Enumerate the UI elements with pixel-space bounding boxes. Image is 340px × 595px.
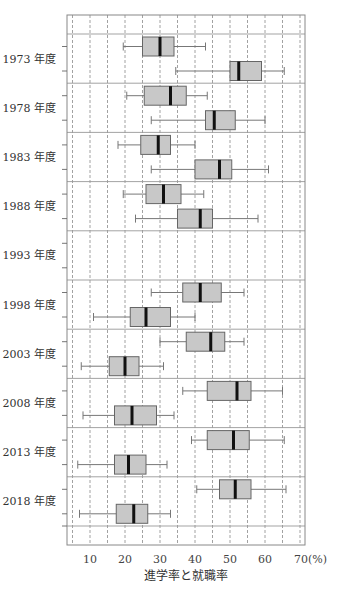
median-line [199,209,202,228]
year-label: 1973 年度 [3,52,57,66]
median-line [218,160,221,179]
median-line [127,455,130,474]
year-label: 1988 年度 [3,199,57,213]
x-tick-label: 40 [188,553,202,566]
x-axis-title: 進学率と就職率 [144,568,228,583]
median-line [199,283,202,302]
iqr-box [207,381,251,400]
x-tick-label: 10 [83,553,97,566]
iqr-box [183,283,222,302]
y-axis-ticks [62,47,67,527]
x-tick-label: 30 [153,553,167,566]
iqr-box [141,135,171,154]
box-advancement-rate [94,308,196,327]
box-advancement-rate [123,37,205,56]
box-advancement-rate [80,504,171,523]
iqr-box [230,62,262,81]
box-employment-rate [176,62,285,81]
year-label: 2013 年度 [3,445,57,459]
box-employment-rate [197,480,286,499]
x-tick-label: 50 [223,553,237,566]
median-line [162,185,165,204]
iqr-box [206,111,236,130]
median-line [145,308,148,327]
box-advancement-rate [123,185,204,204]
median-line [232,431,235,450]
year-label: 1978 年度 [3,101,57,115]
year-label: 1998 年度 [3,298,57,312]
x-axis-tick-labels: 10203040506070(%) [83,553,327,566]
x-tick-label: 20 [118,553,132,566]
iqr-box [130,308,170,327]
median-line [209,332,212,351]
iqr-box [115,455,147,474]
group-separators [67,34,305,526]
box-employment-rate [151,111,265,130]
median-line [131,406,134,425]
boxplot-chart: 1973 年度1978 年度1983 年度1988 年度1993 年度1998 … [0,0,340,595]
iqr-box [144,86,186,105]
x-tick-label: 70(%) [294,553,327,566]
iqr-box [116,504,148,523]
x-tick-label: 60 [258,553,272,566]
median-line [213,111,216,130]
box-employment-rate [183,381,283,400]
box-advancement-rate [78,455,167,474]
box-employment-rate [192,431,285,450]
iqr-box [195,160,232,179]
iqr-box [207,431,249,450]
iqr-box [115,406,157,425]
box-employment-rate [151,160,268,179]
box-employment-rate [160,332,244,351]
iqr-box [186,332,225,351]
year-label: 2003 年度 [3,347,57,361]
year-label: 1993 年度 [3,248,57,262]
year-label: 2018 年度 [3,494,57,508]
box-advancement-rate [81,357,163,376]
median-line [132,504,135,523]
median-line [237,62,240,81]
year-label: 1983 年度 [3,150,57,164]
box-advancement-rate [118,135,195,154]
iqr-box [143,37,175,56]
median-line [159,37,162,56]
median-line [236,381,239,400]
iqr-box [178,209,213,228]
median-line [169,86,172,105]
median-line [124,357,127,376]
box-employment-rate [136,209,259,228]
y-axis-labels: 1973 年度1978 年度1983 年度1988 年度1993 年度1998 … [3,52,57,509]
median-line [234,480,237,499]
year-label: 2008 年度 [3,396,57,410]
median-line [157,135,160,154]
